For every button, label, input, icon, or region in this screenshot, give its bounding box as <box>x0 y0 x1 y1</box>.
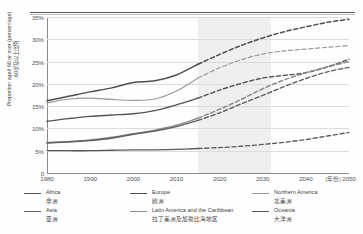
legend-label-en: Oceania <box>274 207 295 213</box>
x-axis-unit-label: (年份) <box>325 175 341 183</box>
chart-page: Proportion aged 60 or over (percentage) … <box>0 0 363 234</box>
x-tick-label: 2040 <box>299 175 312 182</box>
legend-label-en: Europe <box>152 189 170 195</box>
x-tick-label: 2050 <box>342 175 355 182</box>
legend-swatch-icon <box>252 193 269 194</box>
series-line-asia-projected <box>198 67 349 120</box>
y-tick-label: 30% <box>32 36 44 43</box>
series-line-europe-projected <box>198 19 349 64</box>
series-line-africa-projected <box>198 132 349 148</box>
legend-label-cn: 欧洲 <box>152 197 164 205</box>
legend-label-cn: 拉丁美洲及加勒比海地区 <box>152 215 218 223</box>
legend-swatch-icon <box>252 211 269 212</box>
x-tick-label: 2020 <box>213 175 226 182</box>
y-tick-label: 20% <box>32 80 44 87</box>
y-tick-label: 35% <box>32 14 44 21</box>
series-line-northern-america-historical <box>47 78 198 103</box>
plot-area <box>47 17 349 173</box>
legend-swatch-icon <box>130 193 147 194</box>
y-tick-label: 15% <box>32 103 44 110</box>
y-tick-label: 25% <box>32 58 44 65</box>
y-tick-label: 5% <box>35 147 44 154</box>
legend-label-cn: 北美洲 <box>274 197 292 205</box>
series-line-oceania-historical <box>47 98 198 121</box>
legend-label-en: Northern America <box>274 189 318 195</box>
header-rule <box>30 12 355 13</box>
y-tick-label: 10% <box>32 125 44 132</box>
legend-label-en: Latin America and the Caribbean <box>152 207 233 213</box>
legend-label-cn: 亚洲 <box>46 215 58 223</box>
chart-legend: Africa非洲Asia亚洲Europe欧洲Latin America and … <box>24 190 354 230</box>
x-tick-label: 2030 <box>256 175 269 182</box>
series-line-asia-historical <box>47 120 198 142</box>
x-axis-ticks: (年份) 19801990200020102020203020402050 <box>0 175 363 189</box>
series-line-oceania-projected <box>198 59 349 98</box>
legend-swatch-icon <box>24 193 41 194</box>
legend-label-en: Asia <box>46 207 57 213</box>
legend-swatch-icon <box>24 211 41 212</box>
series-line-latin-america-and-the-caribbean-historical <box>47 118 198 143</box>
x-tick-label: 2000 <box>127 175 140 182</box>
x-tick-label: 2010 <box>170 175 183 182</box>
header-rule-secondary <box>30 14 355 15</box>
series-line-africa-historical <box>47 148 198 150</box>
x-tick-label: 1980 <box>40 175 53 182</box>
x-tick-label: 1990 <box>83 175 96 182</box>
y-axis-ticks: 05%10%15%20%25%30%35% <box>0 0 47 173</box>
x-axis-line <box>47 173 349 174</box>
series-line-europe-historical <box>47 64 198 101</box>
legend-swatch-icon <box>130 211 147 212</box>
series-line-northern-america-projected <box>198 46 349 79</box>
legend-label-cn: 大洋洲 <box>274 215 292 223</box>
legend-label-en: Africa <box>46 189 60 195</box>
series-lines <box>47 17 349 173</box>
legend-label-cn: 非洲 <box>46 197 58 205</box>
